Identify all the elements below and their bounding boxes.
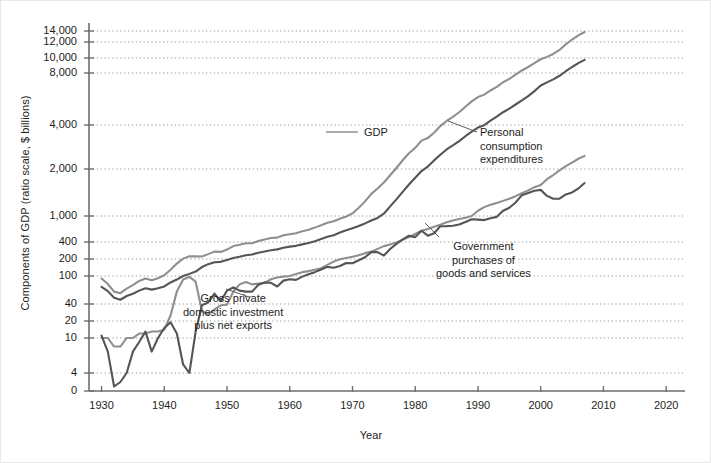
x-tick-label: 1940 bbox=[134, 400, 194, 411]
y-tick-label: 4,000 bbox=[5, 119, 77, 130]
y-tick-label: 20 bbox=[5, 315, 77, 326]
chart-figure: Components of GDP (ratio scale, $ billio… bbox=[0, 0, 711, 463]
x-tick-label: 1930 bbox=[72, 400, 132, 411]
y-tick-label: 0 bbox=[5, 385, 77, 396]
annotation-leader-line-1 bbox=[448, 121, 477, 132]
x-tick-label: 1970 bbox=[322, 400, 382, 411]
y-tick-label: 8,000 bbox=[5, 67, 77, 78]
y-tick-label: 1,000 bbox=[5, 210, 77, 221]
annotation-gross-private-domestic-investment: Gross private domestic investment plus n… bbox=[183, 292, 283, 333]
y-tick-label: 400 bbox=[5, 236, 77, 247]
x-tick-label: 1960 bbox=[260, 400, 320, 411]
y-tick-label: 40 bbox=[5, 298, 77, 309]
y-tick-label: 12,000 bbox=[5, 36, 77, 47]
y-tick-label: 100 bbox=[5, 270, 77, 281]
x-tick-label: 2010 bbox=[573, 400, 633, 411]
annotation-gdp: GDP bbox=[364, 126, 388, 140]
y-tick-label: 14,000 bbox=[5, 25, 77, 36]
y-tick-label: 4 bbox=[5, 367, 77, 378]
y-tick-label: 2,000 bbox=[5, 163, 77, 174]
x-axis-title: Year bbox=[311, 429, 431, 441]
y-tick-label: 10 bbox=[5, 332, 77, 343]
x-tick-label: 2020 bbox=[636, 400, 696, 411]
y-tick-label: 200 bbox=[5, 253, 77, 264]
series-line-3 bbox=[102, 183, 585, 386]
annotation-government-purchases: Government purchases of goods and servic… bbox=[436, 240, 531, 281]
x-tick-label: 2000 bbox=[511, 400, 571, 411]
annotation-personal-consumption-expenditures: Personal consumption expenditures bbox=[480, 126, 543, 167]
x-tick-label: 1980 bbox=[385, 400, 445, 411]
x-tick-label: 1950 bbox=[197, 400, 257, 411]
x-tick-label: 1990 bbox=[448, 400, 508, 411]
chart-canvas bbox=[1, 1, 711, 463]
y-tick-label: 10,000 bbox=[5, 52, 77, 63]
